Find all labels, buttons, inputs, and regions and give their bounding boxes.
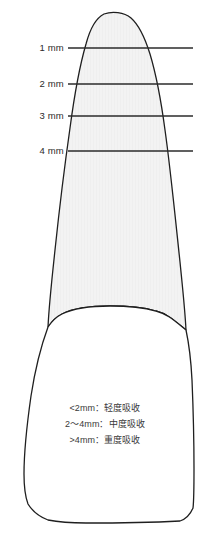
measurement-label-4mm: 4 mm [26,146,64,156]
resorption-grading-legend: <2mm：轻度吸收 2～4mm：中度吸收 >4mm：重度吸收 [40,400,170,448]
measurement-label-1mm: 1 mm [26,43,64,53]
legend-line-severe: >4mm：重度吸收 [40,432,170,448]
legend-line-moderate: 2～4mm：中度吸收 [40,416,170,432]
measurement-label-3mm: 3 mm [26,111,64,121]
measurement-label-2mm: 2 mm [26,79,64,89]
legend-line-mild: <2mm：轻度吸收 [40,400,170,416]
tooth-root-shape [48,12,186,330]
